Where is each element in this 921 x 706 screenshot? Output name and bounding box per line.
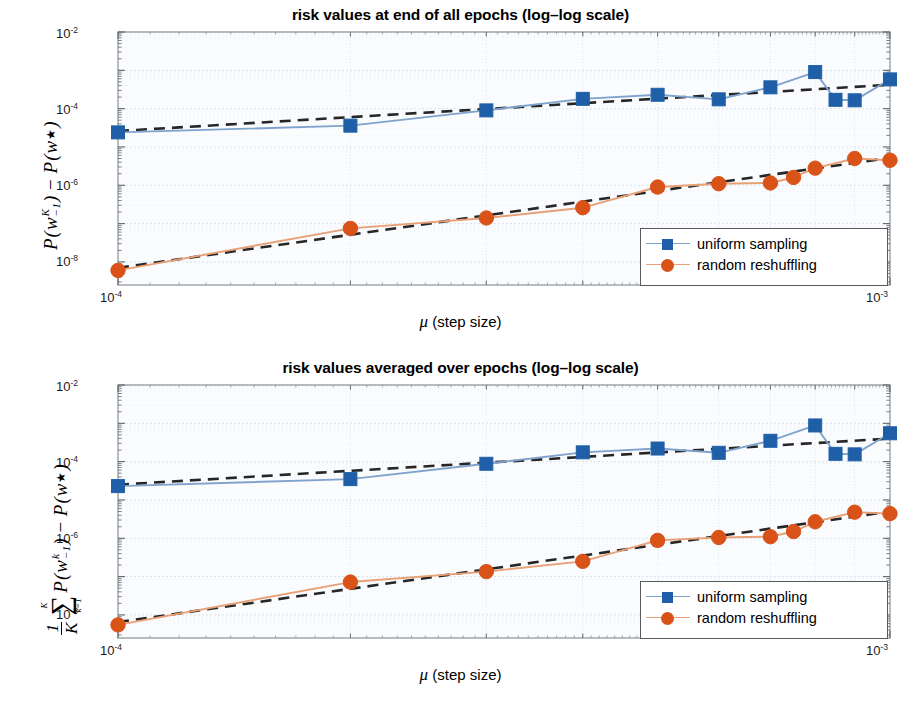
legend-item-uniform-sampling[interactable]: uniform sampling (646, 586, 879, 607)
legend-item-uniform-sampling[interactable]: uniform sampling (646, 233, 879, 254)
legend-label-random-reshuffling: random reshuffling (697, 610, 817, 626)
legend-swatch-uniform-sampling (646, 590, 690, 604)
chart-panel-top: risk values at end of all epochs (log–lo… (0, 0, 921, 353)
chart-legend-top[interactable]: uniform sampling random reshuffling (640, 228, 888, 286)
legend-item-random-reshuffling[interactable]: random reshuffling (646, 254, 879, 275)
legend-swatch-uniform-sampling (646, 237, 690, 251)
y-tick-label-1e-8: 10-8 (56, 253, 78, 269)
legend-item-random-reshuffling[interactable]: random reshuffling (646, 607, 879, 628)
y-axis-label-top: P(wK−1) − P(w★) (40, 121, 63, 250)
plot-canvas-bottom (0, 353, 921, 706)
y-tick-label-1e-2: 10-2 (56, 378, 78, 394)
plot-canvas-top (0, 0, 921, 353)
y-tick-label-1e-4: 10-4 (56, 101, 78, 117)
legend-label-uniform-sampling: uniform sampling (697, 236, 807, 252)
x-axis-label-top: μ (step size) (0, 312, 921, 332)
chart-legend-bottom[interactable]: uniform sampling random reshuffling (640, 581, 888, 639)
y-axis-label-bottom: 1K K ∑ k=1 P(wk−1) − P(w★) (40, 464, 83, 636)
figure-root: risk values at end of all epochs (log–lo… (0, 0, 921, 706)
x-tick-label-1e-4: 10-4 (100, 642, 122, 658)
x-tick-label-1e-4: 10-4 (100, 289, 122, 305)
legend-swatch-random-reshuffling (646, 258, 690, 272)
legend-label-uniform-sampling: uniform sampling (697, 589, 807, 605)
legend-label-random-reshuffling: random reshuffling (697, 257, 817, 273)
x-tick-label-1e-3: 10-3 (866, 289, 888, 305)
chart-panel-bottom: risk values averaged over epochs (log–lo… (0, 353, 921, 706)
x-tick-label-1e-3: 10-3 (866, 642, 888, 658)
y-tick-label-1e-2: 10-2 (56, 25, 78, 41)
legend-swatch-random-reshuffling (646, 611, 690, 625)
x-axis-label-bottom: μ (step size) (0, 665, 921, 685)
